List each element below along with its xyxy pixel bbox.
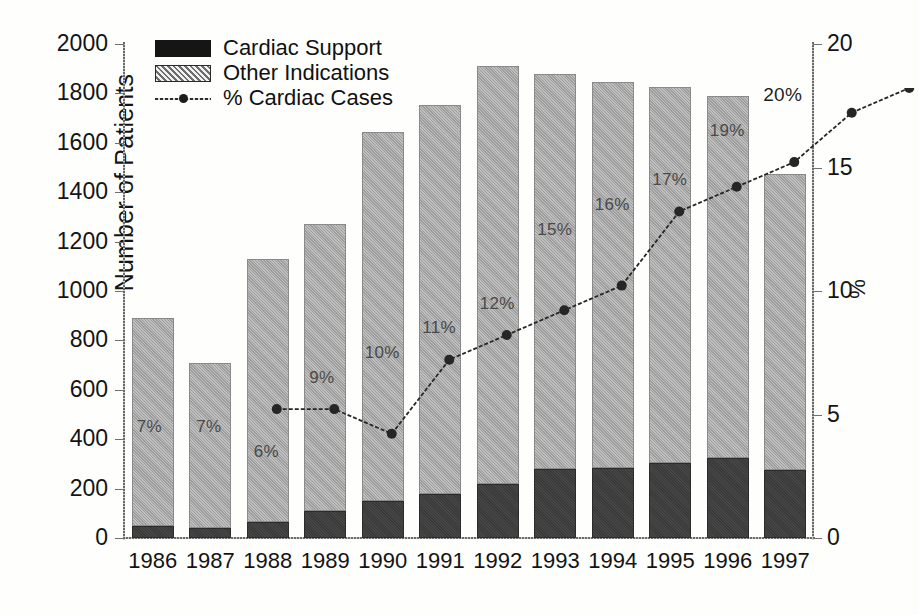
point-label: 15% [537, 220, 572, 240]
percent-line-marker [732, 182, 742, 192]
y-axis-right-tick [813, 44, 822, 45]
legend-swatch-line-marker-icon [155, 90, 211, 107]
point-label: 12% [480, 294, 515, 314]
point-label: 19% [710, 121, 745, 141]
bar-segment-cardiac-support [132, 526, 174, 538]
x-axis-tick-label: 1997 [750, 548, 820, 574]
y-axis-left-tick [115, 93, 124, 94]
y-axis-right-tick-label: 20 [827, 32, 867, 55]
point-label: 7% [137, 417, 162, 437]
y-axis-left-tick-label: 1200 [38, 230, 108, 253]
bar-segment-other-indications [189, 363, 231, 528]
y-axis-left-tick [115, 242, 124, 243]
legend-label: Other Indications [223, 61, 389, 85]
y-axis-left-tick-label: 800 [38, 328, 108, 351]
y-axis-left-tick [115, 143, 124, 144]
percent-line-marker [904, 88, 914, 93]
y-axis-left-tick [115, 489, 124, 490]
percent-line-marker [674, 207, 684, 217]
bar-column [189, 363, 231, 538]
point-label: 17% [652, 170, 687, 190]
chart-legend: Cardiac Support Other Indications % Card… [155, 36, 395, 111]
point-label: 11% [422, 318, 456, 338]
y-axis-left-tick-label: 1800 [38, 81, 108, 104]
point-label: 6% [254, 442, 279, 462]
percent-line-marker [617, 281, 627, 291]
percent-line-marker [329, 404, 339, 414]
percent-line-marker [789, 157, 799, 167]
y-axis-left-tick-label: 400 [38, 427, 108, 450]
plot-area: 7%7%6%9%10%11%12%15%16%17%19%20% [124, 44, 814, 538]
bar-segment-cardiac-support [189, 528, 231, 538]
y-axis-left-tick-label: 1000 [38, 279, 108, 302]
legend-label: Cardiac Support [223, 36, 382, 60]
percent-line-marker [502, 330, 512, 340]
legend-item-percent-cardiac-cases: % Cardiac Cases [155, 86, 395, 110]
percent-line-marker [847, 108, 857, 118]
point-label: 9% [309, 368, 334, 388]
y-axis-left-tick [115, 390, 124, 391]
y-axis-left-tick-label: 2000 [38, 32, 108, 55]
y-axis-left-tick-label: 200 [38, 477, 108, 500]
percent-line-marker [387, 429, 397, 439]
y-axis-left-tick-label: 1400 [38, 180, 108, 203]
percent-line-marker [272, 404, 282, 414]
y-axis-left-tick-label: 600 [38, 378, 108, 401]
point-label: 20% [763, 84, 802, 106]
point-label: 16% [595, 195, 630, 215]
y-axis-left-tick [115, 439, 124, 440]
y-axis-left-tick [115, 192, 124, 193]
y-axis-left-tick [115, 340, 124, 341]
point-label: 10% [365, 343, 400, 363]
y-axis-left-tick-label: 1600 [38, 131, 108, 154]
percent-line-marker [444, 355, 454, 365]
percent-line-marker [559, 305, 569, 315]
legend-swatch-black-square-icon [155, 40, 211, 57]
point-label: 7% [196, 417, 221, 437]
y-axis-left-tick [115, 44, 124, 45]
y-axis-left-tick [115, 291, 124, 292]
percent-line-series [248, 88, 919, 582]
legend-label: % Cardiac Cases [223, 86, 393, 110]
legend-item-other-indications: Other Indications [155, 61, 395, 85]
legend-item-cardiac-support: Cardiac Support [155, 36, 395, 60]
y-axis-left-tick [115, 538, 124, 539]
percent-line-path [277, 88, 910, 434]
y-axis-left-tick-label: 0 [38, 526, 108, 549]
legend-swatch-hatched-square-icon [155, 65, 211, 82]
